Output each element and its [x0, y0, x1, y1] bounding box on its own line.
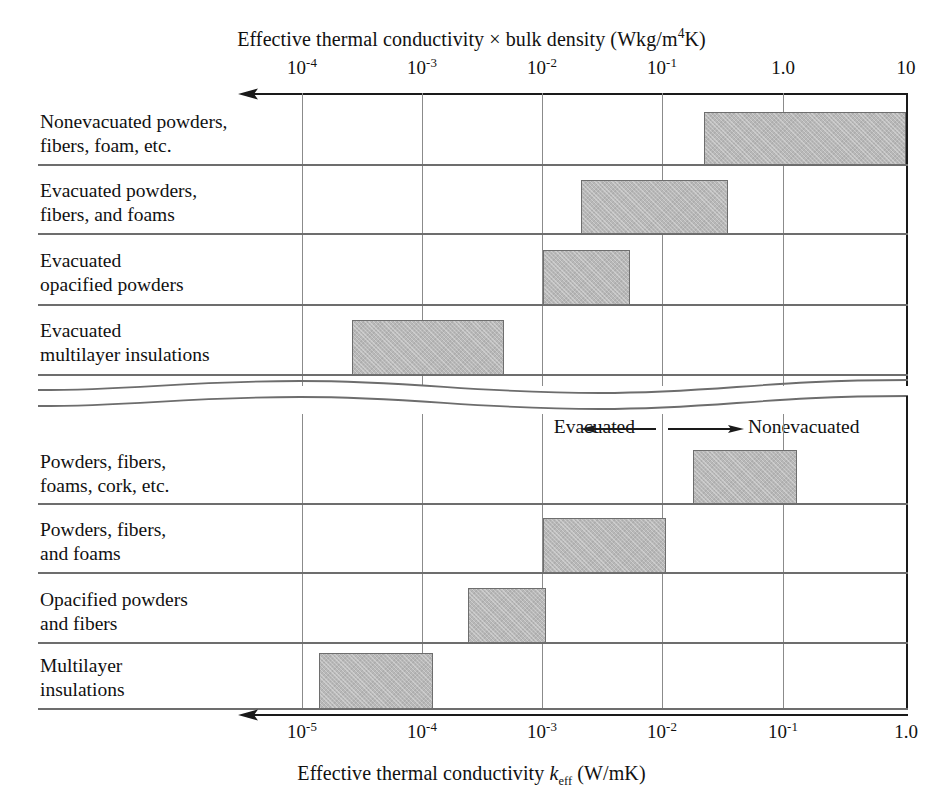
tick-base: 10	[407, 721, 426, 742]
row-label-line1: Evacuated	[40, 249, 184, 273]
tick-base: 1.0	[894, 721, 918, 742]
bar-upper-0	[704, 112, 906, 165]
multiply-icon: ×	[489, 28, 500, 50]
top-axis-title-mid: bulk density (Wkg/m	[501, 28, 678, 50]
bottom-axis-title: Effective thermal conductivity keff (W/m…	[0, 762, 943, 785]
split-label-evacuated: Evacuated	[430, 416, 635, 438]
bottom-tick-label-4: 10-1	[768, 721, 798, 743]
gridline-upper-3	[662, 93, 663, 386]
bar-upper-2	[543, 250, 630, 305]
row-label-line1: Powders, fibers,	[40, 450, 169, 474]
bar-lower-1	[543, 518, 666, 573]
bottom-tick-label-2: 10-3	[527, 721, 557, 743]
row-label-upper-0: Nonevacuated powders, fibers, foam, etc.	[40, 110, 227, 158]
tick-base: 10	[287, 57, 306, 78]
tick-base: 10	[287, 721, 306, 742]
row-label-line2: and foams	[40, 542, 166, 566]
bottom-tick-label-0: 10-5	[287, 721, 317, 743]
frame-right-upper	[906, 93, 908, 386]
tick-base: 10	[407, 57, 426, 78]
tick-exp: -3	[426, 55, 437, 70]
row-label-line1: Evacuated	[40, 319, 210, 343]
row-label-line2: fibers, foam, etc.	[40, 134, 227, 158]
top-axis-title-post: K)	[685, 28, 706, 50]
tick-base: 10	[527, 721, 546, 742]
row-label-line1: Evacuated powders,	[40, 179, 197, 203]
frame-right-lower	[906, 396, 908, 710]
gridline-lower-0	[302, 414, 303, 710]
top-axis-rule	[246, 93, 908, 95]
row-rule-upper-2	[38, 304, 908, 306]
top-tick-label-1: 10-3	[407, 57, 437, 79]
bar-lower-2	[468, 588, 546, 643]
tick-exp: -5	[306, 719, 317, 734]
row-label-line2: multilayer insulations	[40, 343, 210, 367]
tick-base: 10	[897, 57, 916, 78]
bottom-tick-label-1: 10-4	[407, 721, 437, 743]
row-rule-lower-1	[38, 572, 908, 574]
bar-lower-0	[693, 450, 797, 504]
chart-canvas: Effective thermal conductivity × bulk de…	[0, 0, 943, 808]
tick-exp: -2	[546, 55, 557, 70]
row-label-upper-1: Evacuated powders, fibers, and foams	[40, 179, 197, 227]
bar-upper-1	[581, 180, 728, 234]
row-label-line2: opacified powders	[40, 273, 184, 297]
row-label-upper-2: Evacuated opacified powders	[40, 249, 184, 297]
top-tick-label-4: 1.0	[771, 57, 795, 79]
row-label-line1: Nonevacuated powders,	[40, 110, 227, 134]
tick-base: 10	[527, 57, 546, 78]
row-rule-lower-3	[38, 708, 908, 710]
bar-upper-3	[352, 320, 504, 375]
bottom-axis-title-post: (W/mK)	[572, 762, 645, 784]
tick-exp: -4	[306, 55, 317, 70]
gridline-upper-0	[302, 93, 303, 386]
row-label-line2: foams, cork, etc.	[40, 474, 169, 498]
row-label-lower-3: Multilayer insulations	[40, 654, 125, 702]
bottom-axis-rule	[246, 714, 908, 716]
tick-exp: -4	[426, 719, 437, 734]
top-axis-title: Effective thermal conductivity × bulk de…	[0, 28, 943, 51]
tick-base: 10	[647, 57, 666, 78]
top-tick-label-5: 10	[897, 57, 916, 79]
row-label-line2: fibers, and foams	[40, 203, 197, 227]
top-axis-title-sup: 4	[678, 26, 685, 41]
top-axis-title-pre: Effective thermal conductivity	[237, 28, 489, 50]
row-label-lower-2: Opacified powders and fibers	[40, 588, 188, 636]
axis-break-wave-icon	[0, 378, 943, 414]
tick-base: 10	[647, 721, 666, 742]
tick-base: 1.0	[771, 57, 795, 78]
tick-exp: -3	[546, 719, 557, 734]
row-label-lower-1: Powders, fibers, and foams	[40, 518, 166, 566]
split-label-nonevacuated: Nonevacuated	[748, 416, 943, 438]
bottom-axis-title-pre: Effective thermal conductivity	[297, 762, 549, 784]
row-label-line1: Powders, fibers,	[40, 518, 166, 542]
tick-exp: -1	[787, 719, 798, 734]
row-label-line1: Opacified powders	[40, 588, 188, 612]
row-label-lower-0: Powders, fibers, foams, cork, etc.	[40, 450, 169, 498]
tick-exp: -2	[666, 719, 677, 734]
row-label-line1: Multilayer	[40, 654, 125, 678]
top-tick-label-2: 10-2	[527, 57, 557, 79]
row-label-upper-3: Evacuated multilayer insulations	[40, 319, 210, 367]
gridline-upper-2	[542, 93, 543, 386]
tick-exp: -1	[666, 55, 677, 70]
bar-lower-3	[319, 653, 433, 709]
top-tick-label-3: 10-1	[647, 57, 677, 79]
row-label-line2: insulations	[40, 678, 125, 702]
top-tick-label-0: 10-4	[287, 57, 317, 79]
row-label-line2: and fibers	[40, 612, 188, 636]
bottom-tick-label-5: 1.0	[894, 721, 918, 743]
tick-base: 10	[768, 721, 787, 742]
bottom-axis-subscript: eff	[558, 774, 572, 788]
bottom-tick-label-3: 10-2	[647, 721, 677, 743]
row-rule-upper-1	[38, 233, 908, 235]
